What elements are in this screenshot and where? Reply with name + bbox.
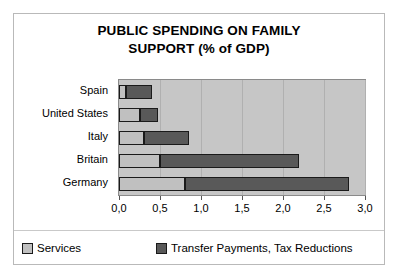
- legend-item[interactable]: Transfer Payments, Tax Reductions: [156, 238, 353, 258]
- axis-tick: [324, 196, 325, 200]
- axis-tick-label: 0,0: [111, 202, 126, 215]
- category-label: Spain: [80, 84, 108, 97]
- chart-title-line-2: SUPPORT (% of GDP): [14, 40, 384, 58]
- chart-title-line-1: PUBLIC SPENDING ON FAMILY: [14, 22, 384, 40]
- bar-segment[interactable]: [144, 131, 189, 145]
- gridline: [365, 80, 366, 195]
- axis-tick-label: 0,5: [152, 202, 167, 215]
- legend-divider: [14, 230, 384, 231]
- category-label: Germany: [63, 176, 108, 189]
- axis-tick: [283, 196, 284, 200]
- chart-legend: ServicesTransfer Payments, Tax Reduction…: [14, 238, 384, 258]
- legend-item[interactable]: Services: [22, 238, 81, 258]
- chart-title: PUBLIC SPENDING ON FAMILY SUPPORT (% of …: [14, 22, 384, 58]
- bar-segment[interactable]: [185, 177, 349, 191]
- category-label: United States: [42, 107, 108, 120]
- plot-area: [118, 79, 366, 196]
- axis-tick-label: 1,0: [193, 202, 208, 215]
- axis-tick-label: 1,5: [234, 202, 249, 215]
- legend-swatch-icon: [22, 243, 33, 254]
- bar-row[interactable]: [119, 108, 365, 122]
- axis-tick: [119, 196, 120, 200]
- bar-segment[interactable]: [119, 177, 185, 191]
- bar-segment[interactable]: [126, 85, 152, 99]
- axis-tick-label: 3,0: [357, 202, 372, 215]
- bar-row[interactable]: [119, 85, 365, 99]
- bar-row[interactable]: [119, 131, 365, 145]
- legend-label: Services: [37, 242, 81, 255]
- axis-tick: [365, 196, 366, 200]
- axis-tick: [201, 196, 202, 200]
- legend-label: Transfer Payments, Tax Reductions: [171, 242, 353, 255]
- value-axis: 0,00,51,01,52,02,53,0: [118, 196, 366, 222]
- bar-segment[interactable]: [140, 108, 159, 122]
- axis-tick: [160, 196, 161, 200]
- bar-row[interactable]: [119, 154, 365, 168]
- bar-segment[interactable]: [119, 108, 140, 122]
- bar-segment[interactable]: [119, 131, 144, 145]
- category-label: Britain: [77, 153, 108, 166]
- chart-figure: PUBLIC SPENDING ON FAMILY SUPPORT (% of …: [13, 13, 385, 265]
- bar-segment[interactable]: [160, 154, 299, 168]
- bar-segment[interactable]: [119, 154, 160, 168]
- axis-tick-label: 2,5: [316, 202, 331, 215]
- axis-tick: [242, 196, 243, 200]
- category-label: Italy: [88, 130, 108, 143]
- legend-swatch-icon: [156, 243, 167, 254]
- category-axis: SpainUnited StatesItalyBritainGermany: [14, 79, 114, 194]
- axis-tick-label: 2,0: [275, 202, 290, 215]
- bar-row[interactable]: [119, 177, 365, 191]
